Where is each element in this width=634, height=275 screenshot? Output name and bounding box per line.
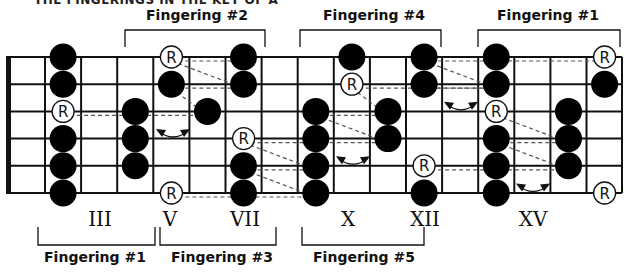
fret-number-marker: V	[163, 207, 177, 231]
root-note-label: R	[419, 157, 429, 175]
nut	[6, 56, 11, 194]
bottom-fingering-label: Fingering #3	[171, 249, 273, 265]
arrowhead-right-icon	[360, 156, 370, 164]
scale-note-dot	[591, 71, 618, 98]
fingering-diagram: THE FINGERINGS IN THE KEY OF A RRRRRRRRR…	[0, 0, 634, 275]
fret-number-marker: VII	[230, 207, 260, 231]
fret-number-marker: XV	[519, 207, 548, 231]
scale-note-dot	[302, 98, 329, 125]
scale-note-dot	[122, 98, 149, 125]
scale-note-dot	[483, 152, 510, 179]
scale-note-dot	[555, 152, 582, 179]
scale-note-dot	[50, 152, 77, 179]
scale-note-dot	[411, 44, 438, 71]
bottom-fingering-label: Fingering #5	[313, 249, 415, 265]
top-fingering-label: Fingering #2	[146, 7, 248, 23]
fretboard: RRRRRRRRR	[0, 0, 634, 275]
scale-note-dot	[375, 125, 402, 152]
arrowhead-left-icon	[336, 156, 346, 164]
scale-note-dot	[230, 152, 257, 179]
arrowhead-left-icon	[444, 102, 454, 110]
scale-note-dot	[122, 125, 149, 152]
root-note-label: R	[491, 103, 501, 121]
scale-note-dot	[230, 71, 257, 98]
bottom-fingering-label: Fingering #1	[44, 249, 146, 265]
scale-note-dot	[122, 152, 149, 179]
arrowhead-right-icon	[468, 102, 478, 110]
root-note-label: R	[166, 49, 176, 67]
scale-note-dot	[50, 44, 77, 71]
scale-note-dot	[158, 71, 185, 98]
scale-note-dot	[483, 71, 510, 98]
top-fingering-label: Fingering #1	[497, 7, 599, 23]
scale-note-dot	[483, 44, 510, 71]
root-note-label: R	[166, 185, 176, 203]
scale-note-dot	[338, 44, 365, 71]
scale-note-dot	[375, 98, 402, 125]
scale-note-dot	[230, 44, 257, 71]
scale-note-dot	[50, 125, 77, 152]
scale-note-dot	[483, 125, 510, 152]
fret-number-marker: X	[341, 207, 355, 231]
scale-note-dot	[50, 71, 77, 98]
scale-note-dot	[302, 125, 329, 152]
scale-note-dot	[411, 180, 438, 207]
scale-note-dot	[483, 180, 510, 207]
root-note-label: R	[599, 49, 609, 67]
root-note-label: R	[58, 103, 68, 121]
fret-number-marker: III	[88, 207, 112, 231]
scale-note-dot	[50, 180, 77, 207]
arrowhead-left-icon	[516, 183, 526, 191]
scale-note-dot	[230, 180, 257, 207]
scale-note-dot	[555, 125, 582, 152]
scale-note-dot	[411, 71, 438, 98]
top-fingering-label: Fingering #4	[323, 7, 425, 23]
bottom-fingering-bracket	[302, 227, 424, 245]
scale-note-dot	[555, 98, 582, 125]
fret-number-marker: XII	[410, 207, 440, 231]
root-note-label: R	[347, 76, 357, 94]
scale-note-dot	[302, 152, 329, 179]
scale-note-dot	[194, 98, 221, 125]
root-note-label: R	[599, 185, 609, 203]
arrowhead-left-icon	[156, 129, 166, 137]
scale-note-dot	[302, 180, 329, 207]
root-note-label: R	[238, 130, 248, 148]
arrowhead-right-icon	[540, 183, 550, 191]
